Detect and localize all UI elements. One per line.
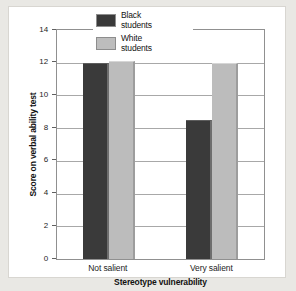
chart-legend: Black studentsWhite students [93,9,193,56]
y-tick-label: 2 [44,221,52,230]
y-tick-label: 14 [39,25,52,34]
bar-black-students-not-salient [83,63,109,259]
bar-white-students-not-salient [109,61,135,259]
figure: Score on verbal ability test 02468101214… [0,0,296,291]
legend-item-black-students: Black students [96,11,191,30]
y-tick: 6 [44,154,56,166]
y-tick: 12 [39,56,56,68]
bar-white-students-very-salient [212,63,238,259]
y-axis-ticks: 02468101214 [9,7,56,277]
x-axis-ticks: Not salientVery salient [56,263,265,277]
y-tick-label: 12 [39,57,52,66]
y-tick: 8 [44,121,56,133]
bar-black-students-very-salient [186,120,212,259]
legend-swatch-icon [96,37,116,50]
chart-card: Score on verbal ability test 02468101214… [8,6,286,278]
y-tick-label: 0 [44,254,52,263]
y-tick-label: 10 [39,90,52,99]
x-tick-label: Very salient [190,263,233,273]
y-tick: 14 [39,23,56,35]
legend-swatch-icon [96,14,116,27]
legend-item-white-students: White students [96,34,191,53]
bar-body [186,120,212,259]
y-tick-label: 4 [44,188,52,197]
plot-area [56,29,265,260]
y-tick: 10 [39,88,56,100]
y-tick: 4 [44,187,56,199]
bar-body [109,61,135,259]
y-tick-label: 6 [44,155,52,164]
legend-label: White students [121,34,152,53]
y-tick-label: 8 [44,123,52,132]
bar-body [83,63,109,259]
x-axis-title: Stereotype vulnerability [56,277,265,287]
y-tick: 0 [44,252,56,264]
bar-body [212,63,238,259]
y-tick: 2 [44,219,56,231]
x-tick-label: Not salient [88,263,127,273]
legend-label: Black students [121,11,152,30]
